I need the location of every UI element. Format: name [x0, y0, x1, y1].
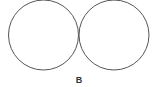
- diagram-canvas: B: [0, 0, 152, 87]
- diagram-label: B: [76, 75, 83, 85]
- left-circle: [9, 0, 79, 70]
- right-circle: [79, 0, 149, 70]
